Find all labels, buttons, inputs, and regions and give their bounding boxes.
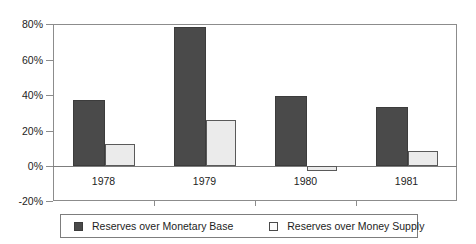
y-axis-label-40: 40% — [0, 90, 43, 100]
y-tick-80 — [46, 24, 53, 25]
x-separator-tick-2 — [255, 201, 256, 206]
x-separator-tick-1 — [154, 201, 155, 206]
x-axis-label-1978: 1978 — [53, 175, 154, 187]
dark-square-icon — [74, 222, 83, 231]
legend-item-money-supply: Reserves over Money Supply — [269, 215, 424, 237]
bar-1979-money-supply — [206, 120, 236, 166]
bar-chart: 80% 60% 40% 20% 0% -20% 1978 1979 198 — [0, 0, 476, 244]
chart-legend: Reserves over Monetary Base Reserves ove… — [60, 214, 418, 238]
bar-1980-monetary-base — [275, 96, 307, 166]
y-axis-label-neg20: -20% — [0, 196, 43, 206]
legend-label-monetary-base: Reserves over Monetary Base — [92, 221, 233, 232]
bar-1981-monetary-base — [376, 107, 408, 166]
y-tick-20 — [46, 131, 53, 132]
legend-item-monetary-base: Reserves over Monetary Base — [74, 215, 233, 237]
y-axis-label-80: 80% — [0, 19, 43, 29]
bar-1979-monetary-base — [174, 27, 206, 166]
x-axis-label-1979: 1979 — [154, 175, 255, 187]
light-square-icon — [269, 222, 278, 231]
y-axis-label-60: 60% — [0, 55, 43, 65]
y-tick-40 — [46, 95, 53, 96]
x-axis-label-1981: 1981 — [356, 175, 457, 187]
bar-1978-monetary-base — [73, 100, 105, 166]
x-axis-label-1980: 1980 — [255, 175, 356, 187]
y-axis-label-0: 0% — [0, 161, 43, 171]
bar-1978-money-supply — [105, 144, 135, 166]
x-separator-tick-3 — [356, 201, 357, 206]
y-tick-neg20 — [46, 201, 53, 202]
bar-1980-money-supply — [307, 166, 337, 171]
y-axis-label-20: 20% — [0, 126, 43, 136]
bar-1981-money-supply — [408, 151, 438, 166]
y-tick-0 — [46, 166, 53, 167]
y-tick-60 — [46, 60, 53, 61]
legend-label-money-supply: Reserves over Money Supply — [287, 221, 424, 232]
